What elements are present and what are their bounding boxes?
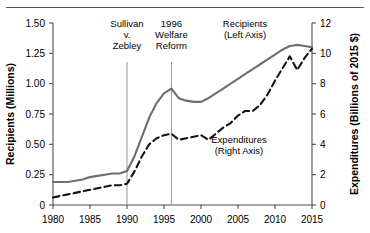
y-axis-title: Recipients (Millions) bbox=[4, 63, 16, 165]
right-axis-tick-label: 10 bbox=[320, 48, 332, 59]
y2-axis-title: Expenditures (Billions of 2015 $) bbox=[348, 33, 360, 195]
x-axis-tick-label: 1995 bbox=[153, 214, 176, 225]
annotation-welfare-reform-line0: 1996 bbox=[161, 18, 182, 29]
chart-svg: 00.250.500.751.001.251.50024681012198019… bbox=[0, 0, 370, 233]
left-axis-tick-label: 1.00 bbox=[26, 78, 46, 89]
annotation-sullivan-v-zebley-line1: v. bbox=[124, 29, 131, 40]
left-axis-tick-label: 0.75 bbox=[26, 109, 46, 120]
annotation-sullivan-v-zebley-line0: Sullivan bbox=[110, 18, 143, 29]
right-axis-tick-label: 12 bbox=[320, 18, 332, 29]
right-axis-tick-label: 8 bbox=[320, 78, 326, 89]
annotation-sullivan-v-zebley-line2: Zebley bbox=[113, 40, 142, 51]
left-axis-tick-label: 0.50 bbox=[26, 139, 46, 150]
left-axis-tick-label: 1.25 bbox=[26, 48, 46, 59]
annotation-welfare-reform-line2: Reform bbox=[156, 40, 187, 51]
x-axis-tick-label: 1990 bbox=[116, 214, 139, 225]
series-line-expenditures bbox=[53, 49, 312, 198]
annotation-welfare-reform-line1: Welfare bbox=[155, 29, 188, 40]
series-line-recipients bbox=[53, 45, 312, 182]
left-axis-tick-label: 1.50 bbox=[26, 18, 46, 29]
x-axis-tick-label: 2005 bbox=[227, 214, 250, 225]
series-label-recipients-axis: (Left Axis) bbox=[224, 29, 266, 40]
x-axis-tick-label: 1985 bbox=[79, 214, 102, 225]
right-axis-tick-label: 0 bbox=[320, 200, 326, 211]
x-axis-tick-label: 2010 bbox=[264, 214, 287, 225]
series-label-expenditures-axis: (Right Axis) bbox=[215, 145, 264, 156]
series-label-recipients: Recipients bbox=[223, 18, 268, 29]
chart-figure: 00.250.500.751.001.251.50024681012198019… bbox=[0, 0, 370, 233]
x-axis-tick-label: 2000 bbox=[190, 214, 213, 225]
right-axis-tick-label: 4 bbox=[320, 139, 326, 150]
x-axis-tick-label: 2015 bbox=[301, 214, 324, 225]
right-axis-tick-label: 2 bbox=[320, 169, 326, 180]
left-axis-tick-label: 0 bbox=[39, 200, 45, 211]
series-label-expenditures: Expenditures bbox=[211, 134, 267, 145]
right-axis-tick-label: 6 bbox=[320, 109, 326, 120]
left-axis-tick-label: 0.25 bbox=[26, 169, 46, 180]
x-axis-tick-label: 1980 bbox=[42, 214, 65, 225]
